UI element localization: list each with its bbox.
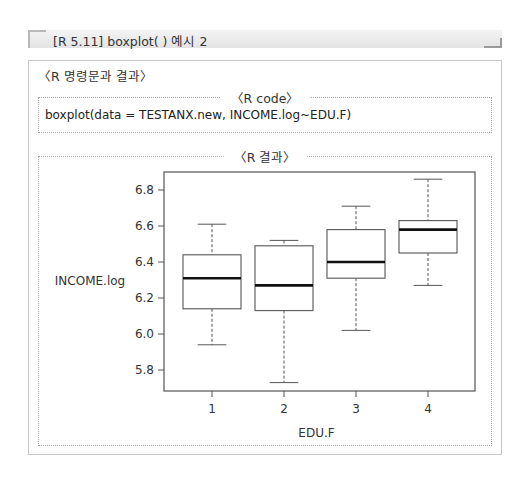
boxplot-chart: 5.86.06.26.46.66.81234EDU.FINCOME.log <box>0 0 527 481</box>
y-tick-label: 6.4 <box>135 255 154 269</box>
x-axis-label: EDU.F <box>298 426 334 440</box>
x-tick-label: 1 <box>208 402 216 416</box>
y-tick-label: 6.8 <box>135 183 154 197</box>
x-tick-label: 2 <box>280 402 288 416</box>
box <box>327 230 385 279</box>
x-tick-label: 3 <box>352 402 360 416</box>
y-axis-label: INCOME.log <box>55 274 125 288</box>
box <box>399 221 457 253</box>
box <box>255 246 313 311</box>
y-tick-label: 6.2 <box>135 291 154 305</box>
box <box>183 255 241 309</box>
y-tick-label: 6.0 <box>135 327 154 341</box>
y-tick-label: 6.6 <box>135 219 154 233</box>
y-tick-label: 5.8 <box>135 363 154 377</box>
x-tick-label: 4 <box>424 402 432 416</box>
